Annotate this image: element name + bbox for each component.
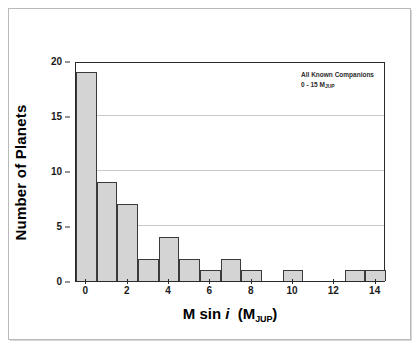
y-axis-title-text: Number of Planets <box>13 104 30 240</box>
x-axis-tick-mark <box>251 279 252 284</box>
annotation-line-2-prefix: 0 - 15 M <box>301 81 325 88</box>
y-axis-tick-mark <box>65 172 70 173</box>
plot-area: All Known Companions 0 - 15 MJUP <box>75 62 385 282</box>
x-axis-tick-label: 8 <box>248 286 254 296</box>
x-axis-tick-mark <box>127 279 128 284</box>
x-axis-tick-label: 10 <box>286 286 297 296</box>
y-axis-tick-mark <box>65 282 70 283</box>
bar <box>159 237 180 281</box>
bar <box>138 259 159 281</box>
annotation-line-2-subscript: JUP <box>325 83 335 89</box>
figure-container: 05101520 Number of Planets All Known Com… <box>0 0 419 348</box>
x-axis-title-subscript: JUP <box>255 314 272 324</box>
x-axis-tick-mark <box>168 279 169 284</box>
x-axis-tick-label: 0 <box>83 286 89 296</box>
y-axis-tick-label: 20 <box>51 57 62 67</box>
x-axis-title-italic: i <box>225 305 229 322</box>
bar <box>221 259 242 281</box>
x-axis-title-paren-open: (M <box>238 305 256 322</box>
bar <box>97 182 118 281</box>
y-axis-tick-mark <box>65 117 70 118</box>
y-axis-tick-label: 10 <box>51 167 62 177</box>
y-axis-tick-label: 15 <box>51 112 62 122</box>
bars-group <box>76 63 384 281</box>
y-axis-tick-mark <box>65 227 70 228</box>
x-axis-tick-mark <box>333 279 334 284</box>
x-axis-tick-label: 6 <box>207 286 213 296</box>
bar <box>241 270 262 281</box>
annotation-line-2: 0 - 15 MJUP <box>301 80 374 90</box>
bar <box>200 270 221 281</box>
annotation-line-1: All Known Companions <box>301 70 374 80</box>
x-axis-title-paren-close: ) <box>272 305 277 322</box>
x-axis-tick-group: 02468101214 <box>75 284 385 302</box>
y-axis-tick-label: 0 <box>56 277 62 287</box>
bar <box>117 204 138 281</box>
x-axis-tick-label: 14 <box>369 286 380 296</box>
y-axis-tick-label: 5 <box>56 222 62 232</box>
x-axis-title-main: M sin <box>183 305 221 322</box>
chart-annotation: All Known Companions 0 - 15 MJUP <box>301 70 374 90</box>
x-axis-tick-mark <box>375 279 376 284</box>
x-axis-tick-label: 12 <box>328 286 339 296</box>
x-axis-tick-mark <box>209 279 210 284</box>
y-axis-title: Number of Planets <box>10 62 32 282</box>
bar <box>76 72 97 281</box>
x-axis-tick-label: 4 <box>165 286 171 296</box>
x-axis-title: M sin i (MJUP) <box>75 305 385 322</box>
x-axis-tick-mark <box>292 279 293 284</box>
x-axis-tick-label: 2 <box>124 286 130 296</box>
y-axis-tick-mark <box>65 62 70 63</box>
bar <box>365 270 386 281</box>
bar <box>179 259 200 281</box>
x-axis-tick-mark <box>85 279 86 284</box>
bar <box>345 270 366 281</box>
